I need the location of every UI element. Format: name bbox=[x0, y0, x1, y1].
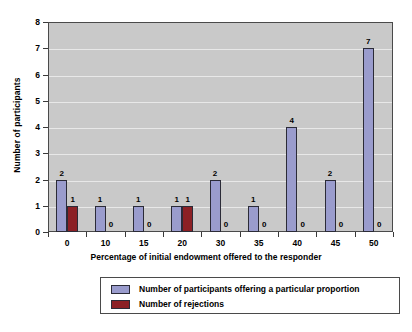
legend-swatch-rejections bbox=[111, 300, 130, 309]
bar-value-label: 0 bbox=[329, 221, 353, 229]
x-axis-tick-label: 35 bbox=[239, 239, 279, 248]
x-axis-tick-mark bbox=[240, 232, 241, 237]
bar-value-label: 0 bbox=[252, 221, 276, 229]
gridline bbox=[49, 102, 392, 103]
bar-value-label: 0 bbox=[214, 221, 238, 229]
bar-value-label: 1 bbox=[241, 196, 265, 204]
x-axis-tick-label: 30 bbox=[201, 239, 241, 248]
y-axis-tick-label: 2 bbox=[10, 175, 40, 184]
y-axis-tick-label: 3 bbox=[10, 149, 40, 158]
x-axis-tick-mark bbox=[86, 232, 87, 237]
y-axis-tick-label: 4 bbox=[10, 123, 40, 132]
bar-value-label: 1 bbox=[61, 196, 85, 204]
y-axis-tick-label: 0 bbox=[10, 228, 40, 237]
x-axis-tick-mark bbox=[278, 232, 279, 237]
bar-value-label: 0 bbox=[137, 221, 161, 229]
bar-value-label: 0 bbox=[291, 221, 315, 229]
bar-value-label: 0 bbox=[367, 221, 391, 229]
y-axis-tick-mark bbox=[43, 127, 48, 128]
gridline bbox=[49, 49, 392, 50]
bar bbox=[56, 180, 67, 233]
bar-value-label: 1 bbox=[126, 196, 150, 204]
bar bbox=[363, 48, 374, 232]
y-axis-tick-label: 7 bbox=[10, 44, 40, 53]
y-axis-tick-label: 1 bbox=[10, 202, 40, 211]
y-axis-tick-mark bbox=[43, 153, 48, 154]
y-axis-tick-mark bbox=[43, 48, 48, 49]
bar-value-label: 2 bbox=[318, 170, 342, 178]
legend-label-participants: Number of participants offering a partic… bbox=[139, 284, 360, 294]
gridline bbox=[49, 76, 392, 77]
bar-value-label: 2 bbox=[50, 170, 74, 178]
x-axis-tick-mark bbox=[163, 232, 164, 237]
x-axis-tick-mark bbox=[48, 232, 49, 237]
x-axis-tick-label: 0 bbox=[47, 239, 87, 248]
gridline bbox=[49, 128, 392, 129]
legend-entry: Number of rejections bbox=[111, 297, 399, 311]
x-axis-tick-mark bbox=[316, 232, 317, 237]
bar-value-label: 0 bbox=[99, 221, 123, 229]
bar bbox=[182, 206, 193, 232]
y-axis-tick-label: 5 bbox=[10, 97, 40, 106]
x-axis-tick-label: 40 bbox=[277, 239, 317, 248]
bar-value-label: 4 bbox=[280, 117, 304, 125]
legend-label-rejections: Number of rejections bbox=[139, 299, 224, 309]
y-axis-tick-mark bbox=[43, 75, 48, 76]
x-axis-tick-label: 10 bbox=[86, 239, 126, 248]
y-axis-tick-label: 6 bbox=[10, 70, 40, 79]
bar-value-label: 1 bbox=[176, 196, 200, 204]
legend-entry: Number of participants offering a partic… bbox=[111, 282, 399, 296]
x-axis-title: Percentage of initial endowment offered … bbox=[0, 252, 412, 262]
bar bbox=[171, 206, 182, 232]
y-axis-tick-label: 8 bbox=[10, 18, 40, 27]
gridline bbox=[49, 181, 392, 182]
bar-value-label: 7 bbox=[356, 38, 380, 46]
bar-chart-figure: Number of participants Percentage of ini… bbox=[0, 0, 412, 332]
legend-swatch-participants bbox=[111, 285, 130, 294]
x-axis-tick-mark bbox=[201, 232, 202, 237]
x-axis-tick-label: 15 bbox=[124, 239, 164, 248]
x-axis-tick-label: 45 bbox=[316, 239, 356, 248]
chart-legend: Number of participants offering a partic… bbox=[100, 277, 400, 314]
x-axis-tick-label: 20 bbox=[162, 239, 202, 248]
y-axis-tick-mark bbox=[43, 101, 48, 102]
x-axis-tick-label: 50 bbox=[354, 239, 394, 248]
bar-value-label: 2 bbox=[203, 170, 227, 178]
y-axis-tick-mark bbox=[43, 206, 48, 207]
x-axis-tick-mark bbox=[125, 232, 126, 237]
x-axis-tick-mark bbox=[393, 232, 394, 237]
bar bbox=[67, 206, 78, 232]
gridline bbox=[49, 154, 392, 155]
x-axis-tick-mark bbox=[355, 232, 356, 237]
bar bbox=[286, 127, 297, 232]
y-axis-tick-mark bbox=[43, 180, 48, 181]
y-axis-tick-mark bbox=[43, 22, 48, 23]
bar-value-label: 1 bbox=[88, 196, 112, 204]
